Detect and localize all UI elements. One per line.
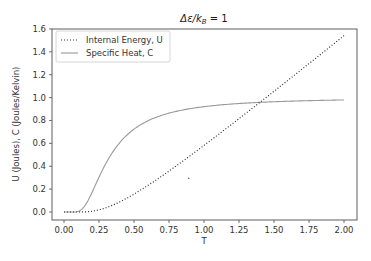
title-rhs: = 1 bbox=[207, 13, 228, 24]
x-axis-ticks: 0.000.250.500.751.001.251.501.752.00 bbox=[55, 220, 354, 235]
y-axis-label: U (Joules), C (Joules/Kelvin) bbox=[11, 67, 21, 182]
x-tick-label: 0.50 bbox=[125, 225, 144, 235]
x-tick-label: 0.25 bbox=[90, 225, 109, 235]
x-tick-label: 1.75 bbox=[300, 225, 319, 235]
x-tick-label: 0.75 bbox=[160, 225, 179, 235]
title-main: Δε/k bbox=[179, 13, 203, 24]
legend-label-specific-heat: Specific Heat, C bbox=[86, 48, 153, 58]
chart-figure: Δε/kB = 1 0.000.250.500.751.001.251.501.… bbox=[0, 0, 371, 261]
x-tick-label: 2.00 bbox=[335, 225, 354, 235]
y-tick-label: 1.4 bbox=[32, 47, 46, 57]
chart-title: Δε/kB = 1 bbox=[179, 13, 227, 26]
x-tick-label: 1.00 bbox=[195, 225, 214, 235]
y-tick-label: 1.2 bbox=[32, 70, 46, 80]
y-tick-label: 1.0 bbox=[32, 93, 46, 103]
y-tick-label: 0.0 bbox=[32, 207, 46, 217]
legend: Internal Energy, U Specific Heat, C bbox=[56, 31, 170, 62]
y-tick-label: 0.8 bbox=[32, 115, 46, 125]
stray-data-point bbox=[188, 177, 190, 179]
legend-label-internal-energy: Internal Energy, U bbox=[86, 35, 163, 45]
y-tick-label: 1.6 bbox=[32, 24, 46, 34]
x-tick-label: 1.25 bbox=[230, 225, 249, 235]
y-axis-ticks: 0.00.20.40.60.81.01.21.41.6 bbox=[32, 24, 52, 217]
y-tick-label: 0.4 bbox=[32, 161, 46, 171]
x-axis-label: T bbox=[200, 236, 207, 246]
x-tick-label: 0.00 bbox=[55, 225, 74, 235]
y-tick-label: 0.2 bbox=[32, 184, 46, 194]
y-tick-label: 0.6 bbox=[32, 138, 46, 148]
x-tick-label: 1.50 bbox=[265, 225, 284, 235]
